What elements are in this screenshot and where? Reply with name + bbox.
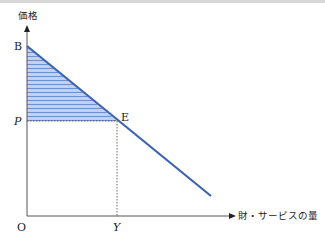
price-label: P — [14, 116, 21, 127]
y-axis-label: 価格 — [18, 11, 38, 21]
diagram-graphics — [0, 0, 325, 241]
quantity-label: Y — [113, 222, 120, 233]
y-axis-arrow-icon — [24, 25, 30, 32]
point-e-label: E — [121, 112, 129, 123]
x-axis-arrow-icon — [229, 213, 236, 219]
diagram-canvas: 価格 B P E O Y 財・サービスの量 — [0, 0, 325, 241]
point-b-label: B — [14, 41, 22, 52]
x-axis-label: 財・サービスの量 — [238, 211, 318, 221]
origin-label: O — [17, 222, 26, 233]
